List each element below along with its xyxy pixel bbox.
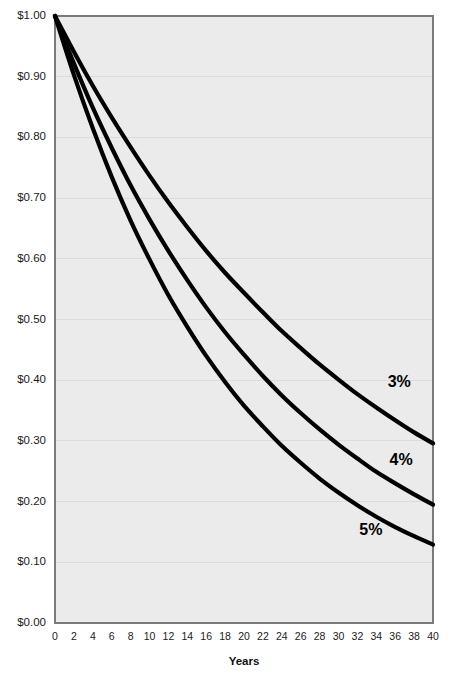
x-axis-tick-label: 36 [389,630,401,642]
x-axis-tick-label: 28 [314,630,326,642]
x-axis-tick-labels: 0246810121416182022242628303234363840 [52,630,439,642]
x-axis-tick-label: 10 [144,630,156,642]
x-axis-tick-label: 26 [295,630,307,642]
x-axis-title: Years [229,655,260,667]
x-axis-tick-label: 24 [276,630,288,642]
y-axis-tick-label: $0.90 [17,70,46,82]
y-axis-tick-label: $0.00 [17,616,46,628]
y-axis-tick-label: $0.30 [17,434,46,446]
x-axis-tick-label: 0 [52,630,58,642]
x-axis-tick-label: 22 [257,630,269,642]
x-axis-tick-label: 32 [352,630,364,642]
x-axis-tick-label: 8 [128,630,134,642]
series-label-5pct: 5% [359,521,382,538]
x-axis-tick-label: 34 [370,630,382,642]
series-label-3pct: 3% [388,373,411,390]
y-axis-tick-label: $0.60 [17,252,46,264]
x-axis-tick-label: 30 [333,630,345,642]
x-axis-tick-label: 40 [427,630,439,642]
x-axis-tick-label: 14 [181,630,193,642]
y-axis-tick-label: $0.50 [17,313,46,325]
y-axis-tick-label: $0.10 [17,555,46,567]
x-axis-tick-label: 38 [408,630,420,642]
x-axis-tick-label: 2 [71,630,77,642]
x-axis-tick-label: 18 [219,630,231,642]
x-axis-tick-label: 12 [163,630,175,642]
y-axis-tick-label: $0.70 [17,191,46,203]
x-axis-tick-label: 16 [200,630,212,642]
series-label-4pct: 4% [390,451,413,468]
x-axis-tick-label: 4 [90,630,96,642]
y-axis-tick-label: $0.20 [17,495,46,507]
y-axis-tick-label: $0.80 [17,130,46,142]
decay-value-chart: $0.00$0.10$0.20$0.30$0.40$0.50$0.60$0.70… [0,0,453,674]
chart-canvas: $0.00$0.10$0.20$0.30$0.40$0.50$0.60$0.70… [0,0,453,674]
y-axis-tick-label: $0.40 [17,373,46,385]
x-axis-tick-label: 6 [109,630,115,642]
y-axis-tick-label: $1.00 [17,9,46,21]
x-axis-tick-label: 20 [238,630,250,642]
